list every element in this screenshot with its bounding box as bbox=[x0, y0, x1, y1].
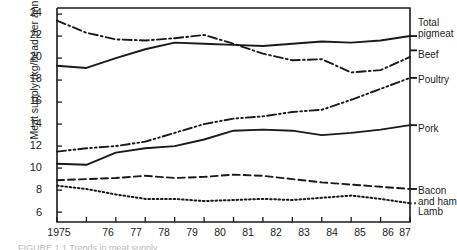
axis-frame bbox=[57, 8, 410, 222]
series-line-poultry bbox=[57, 78, 410, 152]
legend-line-stubs bbox=[410, 36, 417, 203]
series-line-total-pigmeat bbox=[57, 36, 410, 68]
plot-area bbox=[0, 0, 457, 250]
data-series-group bbox=[57, 21, 410, 204]
series-line-lamb bbox=[57, 186, 410, 204]
series-line-beef bbox=[57, 21, 410, 73]
chart-figure: Meat supply (kg/head per annum) 24 22 20… bbox=[0, 0, 457, 250]
series-line-bacon-and-ham bbox=[57, 175, 410, 189]
series-line-pork bbox=[57, 125, 410, 165]
